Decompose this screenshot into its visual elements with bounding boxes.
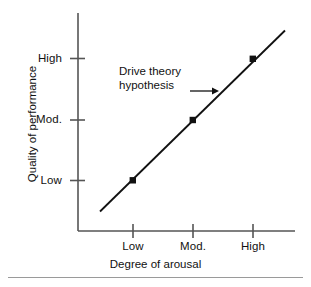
annotation-arrow-head xyxy=(212,88,219,95)
data-point-marker xyxy=(250,56,256,62)
figure-container: Quality of performance High Mod. Low Low… xyxy=(0,0,311,287)
x-tick-label-mod: Mod. xyxy=(163,240,223,253)
data-point-marker xyxy=(130,177,136,183)
annotation-line-2: hypothesis xyxy=(119,78,181,92)
annotation-drive-theory: Drive theory hypothesis xyxy=(119,64,181,92)
data-point-marker xyxy=(190,117,196,123)
y-tick-label-mod: Mod. xyxy=(6,113,62,126)
annotation-line-1: Drive theory xyxy=(119,64,181,78)
y-tick-label-low: Low xyxy=(6,174,62,187)
x-tick-label-high: High xyxy=(223,240,283,253)
x-tick-label-low: Low xyxy=(103,240,163,253)
y-tick-label-high: High xyxy=(6,52,62,65)
x-axis-title: Degree of arousal xyxy=(0,258,311,270)
